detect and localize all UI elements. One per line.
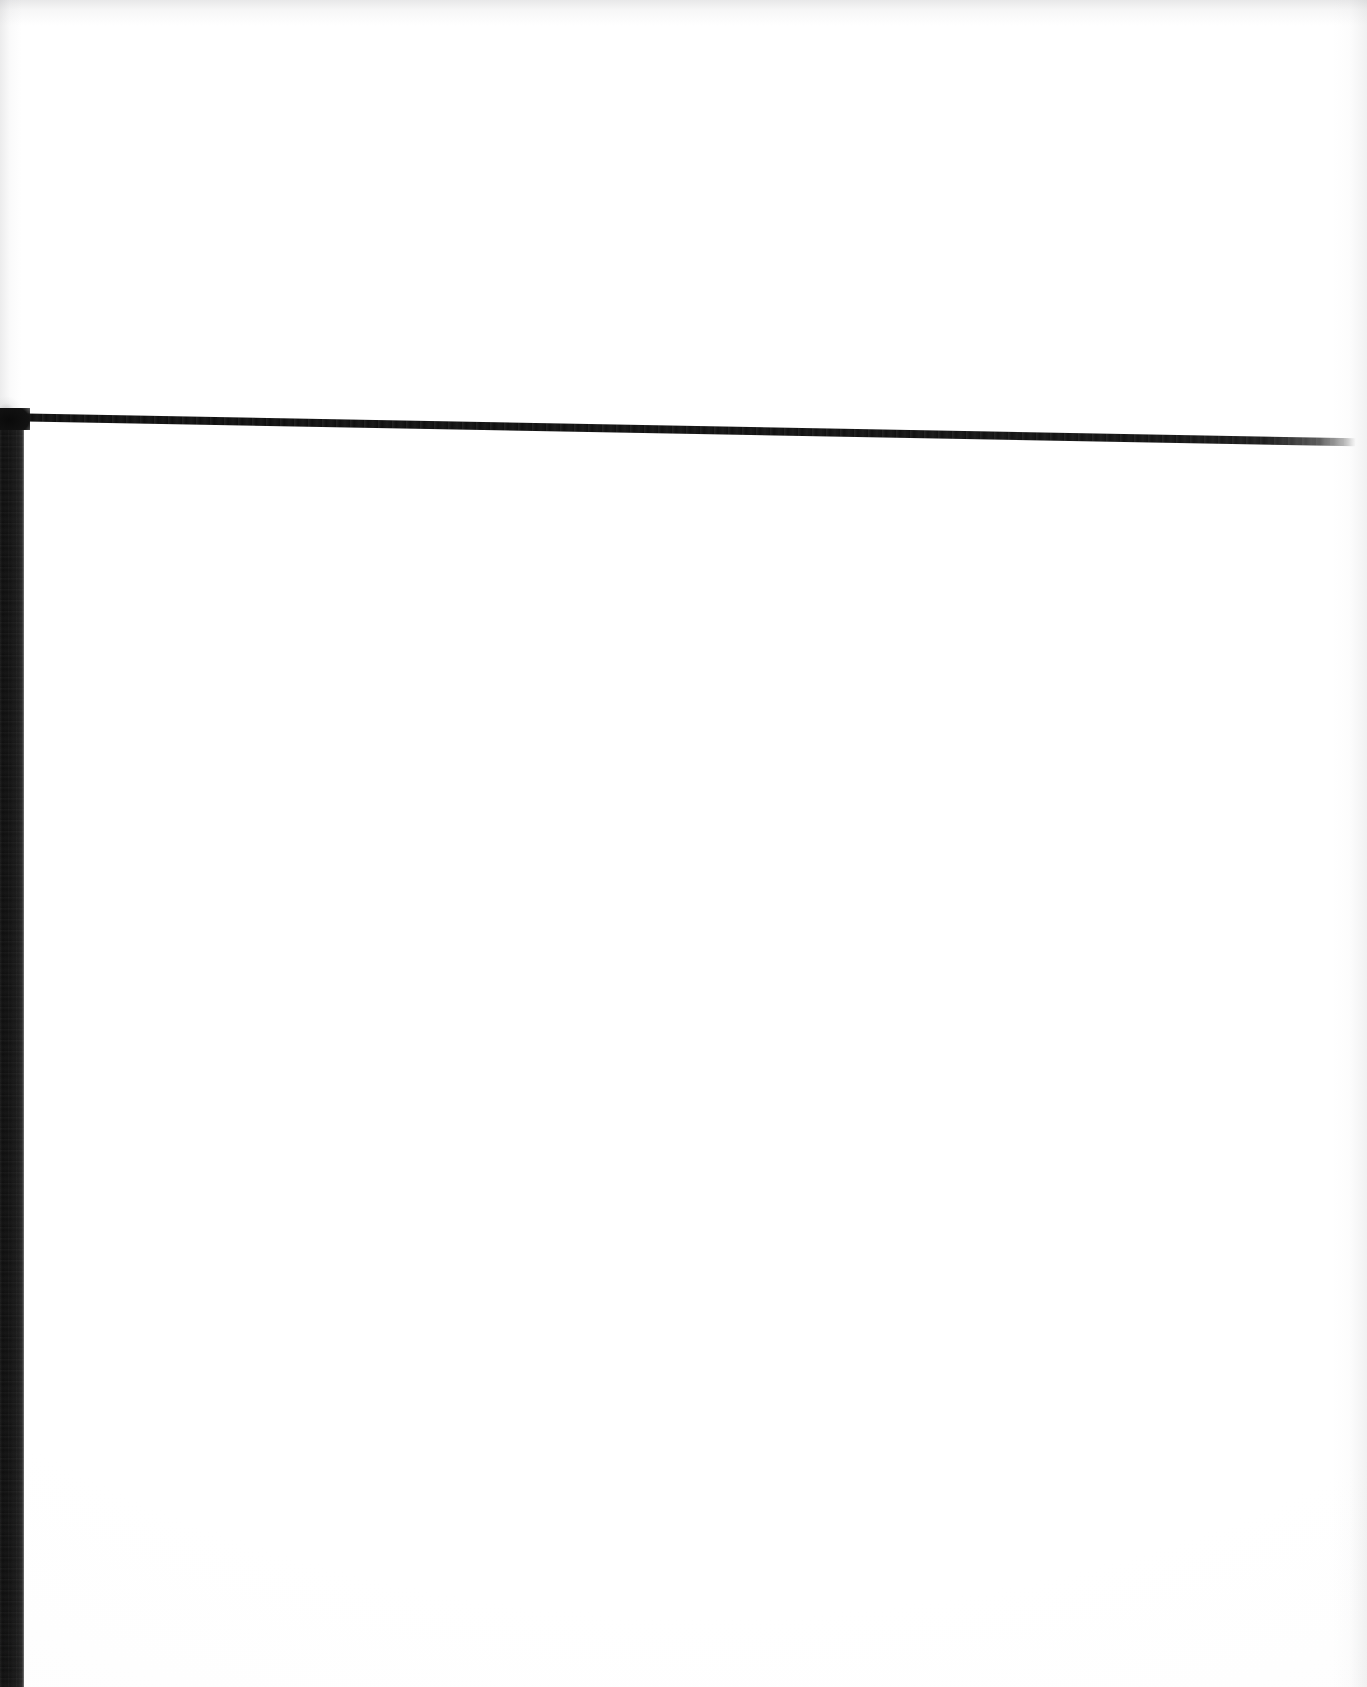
- scan-shadow-left-edge: [0, 0, 22, 420]
- page-content-area: [24, 421, 1367, 1687]
- scanned-page: Scanned page: [0, 0, 1367, 1687]
- page-frame-left-band: [0, 413, 24, 1687]
- scan-shadow-top-edge: [0, 0, 1367, 26]
